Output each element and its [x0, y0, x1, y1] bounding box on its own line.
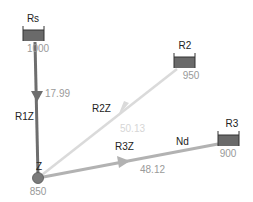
pipe-node-label-nd: Nd: [176, 136, 189, 147]
network-diagram: Rs 1000 R2 950 R3 900 Z 850 R1Z 17.99 R2…: [0, 0, 253, 202]
reservoir-label: Rs: [27, 13, 39, 24]
pipe-label-r3z: R3Z: [115, 141, 134, 152]
reservoir-rs[interactable]: Rs 1000: [23, 13, 50, 54]
reservoir-r2[interactable]: R2 950: [174, 40, 200, 81]
arrow-head-icon: [117, 156, 130, 168]
reservoir-head: 900: [220, 148, 237, 159]
pipe-flow-r2z: 50.13: [120, 123, 145, 134]
junction-z[interactable]: Z 850: [30, 161, 47, 197]
pipe-r2z[interactable]: [38, 69, 177, 178]
reservoir-head: 950: [183, 70, 200, 81]
pipe-flow-r3z: 48.12: [140, 164, 165, 175]
junction-head: 850: [30, 186, 47, 197]
reservoir-label: R2: [179, 40, 192, 51]
pipe-label-r1z: R1Z: [15, 111, 34, 122]
reservoir-head: 1000: [27, 43, 50, 54]
pipe-label-r2z: R2Z: [92, 103, 111, 114]
arrow-head-icon: [31, 91, 43, 102]
reservoir-label: R3: [226, 118, 239, 129]
junction-label: Z: [36, 161, 42, 172]
reservoir-r3[interactable]: R3 900: [218, 118, 239, 159]
pipe-flow-r1z: 17.99: [45, 88, 70, 99]
pipe-r1z[interactable]: [31, 42, 43, 176]
